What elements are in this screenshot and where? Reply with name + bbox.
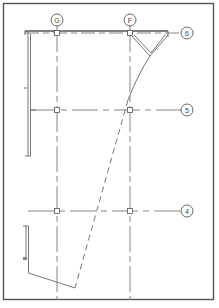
grid-bubble-F: F [124, 14, 136, 26]
grid-label-F: F [128, 17, 132, 24]
top-beam [25, 31, 168, 37]
drawing-border [4, 4, 214, 300]
column-G4 [55, 209, 60, 214]
column-F4 [128, 209, 133, 214]
plan-diagram: G F 6 5 4 [0, 0, 219, 308]
lower-left-wall [23, 226, 75, 288]
curved-edge [128, 56, 150, 100]
grid-label-G: G [54, 17, 59, 24]
grid-label-6: 6 [185, 30, 189, 37]
column-F6 [128, 31, 133, 36]
left-wall [24, 32, 36, 156]
corner-bracket [131, 35, 168, 56]
grid-bubble-5: 5 [181, 104, 193, 116]
column-G6 [55, 31, 60, 36]
dashed-edge [75, 100, 128, 288]
column-F5 [128, 108, 133, 113]
grid-label-5: 5 [185, 107, 189, 114]
grid-bubble-G: G [51, 14, 63, 26]
grid-bubble-4: 4 [181, 205, 193, 217]
grid-bubble-6: 6 [181, 27, 193, 39]
grid-label-4: 4 [185, 208, 189, 215]
column-G5 [55, 108, 60, 113]
column-markers [55, 31, 133, 214]
